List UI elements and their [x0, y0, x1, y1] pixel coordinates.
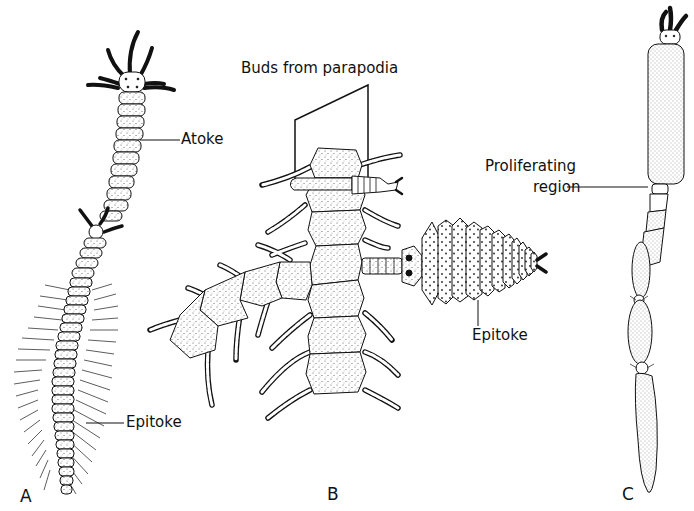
label-proliferating: Proliferating	[485, 159, 576, 174]
label-atoke: Atoke	[181, 132, 223, 147]
label-epitoke-b: Epitoke	[472, 328, 528, 343]
panel-label-b: B	[327, 486, 339, 503]
panel-label-c: C	[622, 486, 634, 503]
label-buds-from-parapodia: Buds from parapodia	[241, 61, 398, 76]
label-region: region	[533, 180, 580, 195]
worm-c	[567, 8, 686, 493]
label-epitoke-a: Epitoke	[126, 415, 182, 430]
panel-label-a: A	[20, 488, 32, 505]
